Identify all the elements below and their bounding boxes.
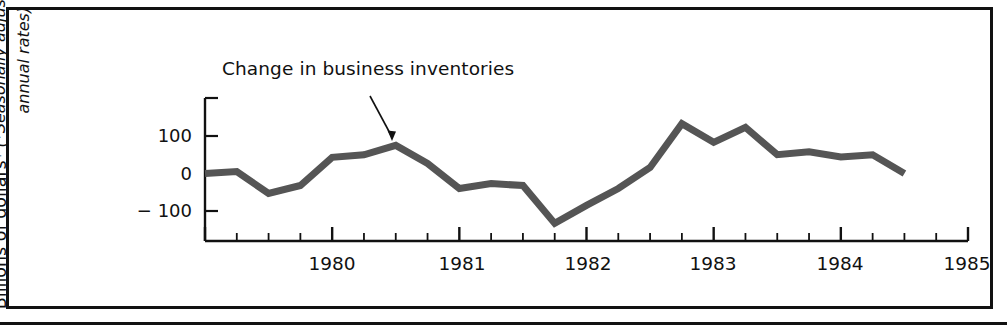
annotation-arrow [370, 96, 396, 141]
y-axis-ticks [205, 98, 218, 211]
x-axis-ticks [205, 227, 968, 241]
chart-plot-area [0, 0, 1007, 331]
data-series-line [205, 124, 904, 224]
figure-container: Billions of dollars* (*Seasonally adjust… [0, 0, 1007, 331]
